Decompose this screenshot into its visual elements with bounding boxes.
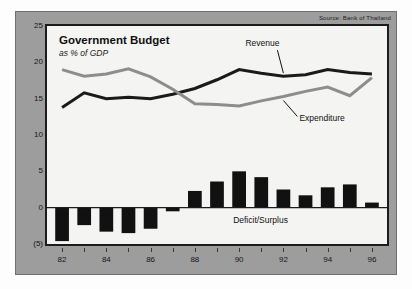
x-axis: 8284868890929496: [45, 248, 389, 272]
bar-1989: [210, 182, 224, 208]
y-tick-neg5neg: (5): [19, 240, 43, 248]
revenue-leader-line: [277, 50, 283, 73]
x-tick-mark-1989: [217, 248, 218, 252]
y-axis: 2520151050(5): [16, 24, 43, 246]
x-tick-88: 88: [190, 256, 199, 264]
y-tick-25: 25: [19, 22, 43, 30]
bar-1995: [343, 184, 357, 207]
x-tick-90: 90: [235, 256, 244, 264]
plot-area: Government Budget as % of GDP RevenueExp…: [45, 24, 389, 246]
x-tick-82: 82: [58, 256, 67, 264]
annotation-expenditure: Expenditure: [299, 113, 344, 123]
bar-1991: [254, 177, 268, 208]
x-tick-mark-1995: [350, 248, 351, 252]
annotation-revenue: Revenue: [245, 38, 279, 48]
x-tick-mark-1986: [151, 248, 152, 252]
bar-1983: [77, 208, 91, 225]
bar-1982: [55, 208, 69, 241]
source-label: Source: Bank of Thailand: [319, 12, 391, 24]
bar-1994: [321, 187, 335, 207]
x-tick-mark-1992: [283, 248, 284, 252]
bar-1990: [232, 171, 246, 207]
y-tick-20: 20: [19, 58, 43, 66]
x-tick-84: 84: [102, 256, 111, 264]
chart-figure: Source: Bank of Thailand 2520151050(5) G…: [0, 0, 412, 289]
x-tick-96: 96: [367, 256, 376, 264]
x-tick-mark-1983: [84, 248, 85, 252]
expenditure-leader-line: [283, 100, 297, 116]
x-tick-mark-1982: [62, 248, 63, 252]
x-tick-mark-1984: [106, 248, 107, 252]
x-tick-mark-1994: [328, 248, 329, 252]
x-tick-92: 92: [279, 256, 288, 264]
annotation-deficit-surplus: Deficit/Surplus: [233, 215, 288, 225]
bar-1986: [144, 208, 158, 229]
y-tick-10: 10: [19, 131, 43, 139]
x-tick-mark-1993: [306, 248, 307, 252]
x-tick-mark-1996: [372, 248, 373, 252]
bar-1988: [188, 191, 202, 208]
y-tick-15: 15: [19, 95, 43, 103]
bar-1993: [299, 195, 313, 207]
source-strip: Source: Bank of Thailand: [16, 12, 396, 24]
chart-panel: Source: Bank of Thailand 2520151050(5) G…: [16, 12, 396, 274]
x-tick-86: 86: [146, 256, 155, 264]
chart-canvas: [47, 26, 387, 244]
bar-1992: [277, 190, 291, 208]
bar-1984: [99, 208, 113, 232]
x-tick-mark-1987: [173, 248, 174, 252]
x-tick-mark-1990: [239, 248, 240, 252]
x-tick-mark-1988: [195, 248, 196, 252]
y-tick-5: 5: [19, 167, 43, 175]
bar-1996: [365, 203, 379, 208]
y-tick-0: 0: [19, 204, 43, 212]
line-expenditure: [62, 69, 372, 106]
bar-1985: [122, 208, 136, 233]
x-tick-mark-1991: [261, 248, 262, 252]
x-tick-mark-1985: [128, 248, 129, 252]
x-tick-94: 94: [323, 256, 332, 264]
